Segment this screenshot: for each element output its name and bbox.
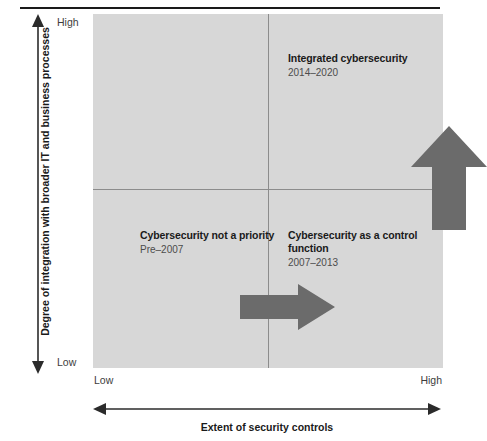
x-axis-title: Extent of security controls [93,421,441,433]
matrix-plot-area: Integrated cybersecurity 2014–2020 Cyber… [93,14,443,368]
quadrant-top-right-title: Integrated cybersecurity [288,52,438,65]
quadrant-bottom-right-title: Cybersecurity as a control function [288,229,433,255]
quadrant-bottom-right: Cybersecurity as a control function 2007… [288,229,433,270]
y-axis-title: Degree of integration with broader IT an… [39,22,52,342]
quadrant-bottom-left-title: Cybersecurity not a priority [140,229,300,242]
quadrant-bottom-right-years: 2007–2013 [288,256,433,270]
quadrant-top-right-years: 2014–2020 [288,66,438,80]
progression-arrow-right-icon [240,284,335,330]
top-divider-rule [20,7,440,9]
x-axis-arrow-icon [93,401,441,417]
progression-arrow-up-icon [411,126,487,230]
quadrant-divider-horizontal [93,189,443,190]
y-axis-tick-low: Low [57,356,76,368]
quadrant-bottom-left: Cybersecurity not a priority Pre–2007 [140,229,300,257]
quadrant-top-right: Integrated cybersecurity 2014–2020 [288,52,438,80]
x-axis-tick-high: High [420,374,442,386]
y-axis-tick-high: High [57,16,79,28]
quadrant-bottom-left-years: Pre–2007 [140,243,300,257]
x-axis-tick-low: Low [94,374,113,386]
